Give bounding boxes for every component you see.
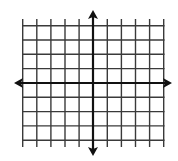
axes [14,10,172,156]
coordinate-plane [0,0,178,161]
